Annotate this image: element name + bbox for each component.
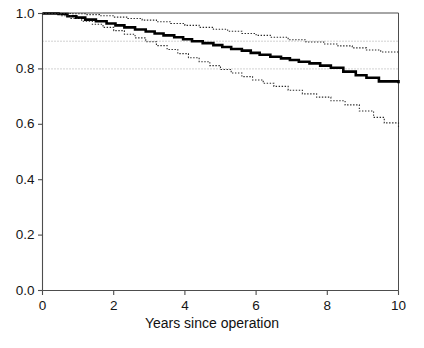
x-tick-label: 4 — [165, 298, 205, 313]
y-tick-label: 0.4 — [0, 172, 35, 187]
axes-group — [38, 13, 399, 295]
plot-area — [0, 0, 424, 348]
x-tick-label: 8 — [307, 298, 347, 313]
survival-chart: 0.00.20.40.60.81.0 0246810 Years since o… — [0, 0, 424, 348]
x-tick-label: 2 — [94, 298, 134, 313]
y-tick-label: 0.2 — [0, 227, 35, 242]
y-tick-label: 0.8 — [0, 61, 35, 76]
y-tick-label: 1.0 — [0, 6, 35, 21]
x-axis-title: Years since operation — [0, 315, 424, 331]
y-tick-label: 0.0 — [0, 283, 35, 298]
series-group — [43, 14, 399, 128]
x-tick-label: 10 — [379, 298, 419, 313]
x-tick-label: 0 — [23, 298, 63, 313]
y-tick-label: 0.6 — [0, 116, 35, 131]
x-tick-label: 6 — [236, 298, 276, 313]
series-curve-2 — [43, 14, 399, 128]
